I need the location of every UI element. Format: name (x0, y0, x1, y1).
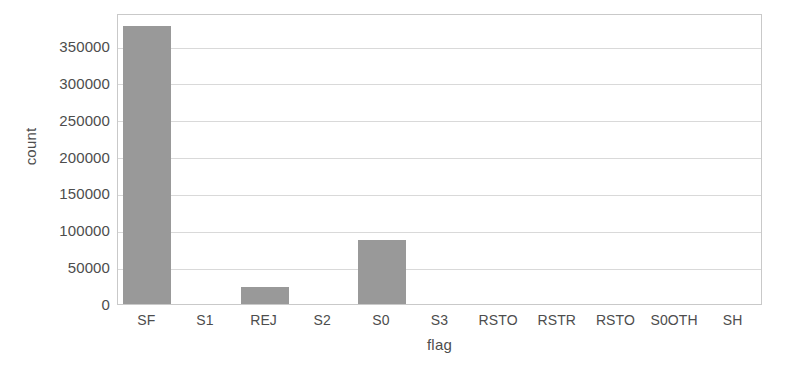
x-axis-title: flag (117, 336, 762, 353)
bar-chart: count 0500001000001500002000002500003000… (0, 0, 792, 379)
y-axis-tick-labels: 0500001000001500002000002500003000003500… (40, 0, 110, 379)
x-axis-tick-label: RSTO (479, 312, 518, 328)
bar (358, 240, 406, 304)
y-axis-tick-label: 200000 (40, 150, 110, 165)
y-axis-tick-label: 50000 (40, 260, 110, 275)
y-axis-tick-label: 150000 (40, 186, 110, 201)
bar (123, 26, 171, 304)
x-axis-tick-label: S2 (314, 312, 331, 328)
x-axis-tick-label: S0OTH (650, 312, 697, 328)
x-axis-tick-labels: SFS1REJS2S0S3RSTORSTRRSTOS0OTHSH (117, 312, 762, 332)
x-axis-tick-label: S1 (196, 312, 213, 328)
y-axis-tick-label: 100000 (40, 223, 110, 238)
x-axis-tick-label: S3 (431, 312, 448, 328)
x-axis-tick-label: REJ (250, 312, 277, 328)
x-axis-tick-label: RSTR (538, 312, 577, 328)
y-axis-tick-label: 0 (40, 297, 110, 312)
y-axis-title: count (22, 117, 39, 177)
y-axis-tick-label: 350000 (40, 39, 110, 54)
y-axis-tick-label: 250000 (40, 113, 110, 128)
plot-area (117, 14, 762, 305)
y-axis-tick-label: 300000 (40, 76, 110, 91)
x-axis-tick-label: RSTO (596, 312, 635, 328)
bars-layer (118, 15, 761, 304)
x-axis-tick-label: SH (723, 312, 743, 328)
x-axis-tick-label: S0 (372, 312, 389, 328)
bar (241, 287, 289, 304)
x-axis-tick-label: SF (137, 312, 155, 328)
